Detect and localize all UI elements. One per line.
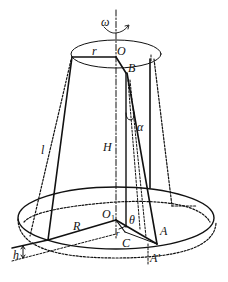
label-alpha: α bbox=[137, 120, 144, 134]
diagram-canvas: ω O r B α l H O 1 θ R A C r A′ h bbox=[0, 0, 228, 282]
label-A-prime: A′ bbox=[149, 251, 160, 265]
label-r-small: r bbox=[116, 228, 120, 238]
conical-pendulum-diagram: ω O r B α l H O 1 θ R A C r A′ h bbox=[0, 0, 228, 282]
label-R: R bbox=[72, 219, 81, 233]
label-h: h bbox=[13, 248, 19, 262]
left-rope-dotted bbox=[30, 60, 71, 236]
label-O1: O bbox=[102, 207, 111, 221]
label-theta: θ bbox=[129, 213, 135, 227]
bottom-radius-R bbox=[48, 220, 116, 240]
label-A: A bbox=[159, 224, 168, 238]
label-r: r bbox=[92, 44, 97, 58]
label-O1-subscript: 1 bbox=[111, 214, 115, 223]
arm-OB bbox=[116, 57, 126, 73]
left-rope bbox=[48, 57, 72, 240]
label-omega: ω bbox=[101, 15, 109, 29]
label-C: C bbox=[122, 236, 131, 250]
label-O: O bbox=[117, 44, 126, 58]
label-l: l bbox=[41, 143, 45, 157]
right-rope-dotted bbox=[154, 59, 172, 206]
label-B: B bbox=[128, 61, 136, 75]
label-H: H bbox=[102, 140, 113, 154]
